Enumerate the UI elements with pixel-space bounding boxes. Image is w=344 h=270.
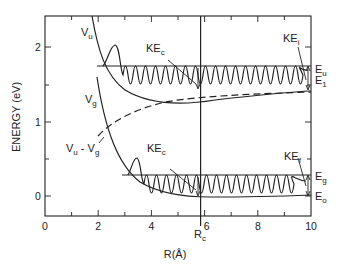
y-tick-2: 2 bbox=[35, 41, 41, 53]
upper-wavefunction bbox=[103, 45, 308, 84]
eg-label: Eg bbox=[315, 170, 327, 185]
plot-frame bbox=[45, 16, 311, 216]
x-tick-4: 4 bbox=[148, 220, 154, 232]
vu-minus-vg-label: Vu - Vg bbox=[66, 142, 99, 157]
kec-upper-label: KEc bbox=[146, 42, 165, 57]
x-tick-2: 2 bbox=[95, 220, 101, 232]
vg-label: Vg bbox=[85, 93, 97, 108]
energy-diagram-chart: 0 2 4 6 8 10 0 1 2 R(Å) ENERGY (eV) Rc bbox=[0, 0, 344, 270]
x-tick-6: 6 bbox=[204, 220, 210, 232]
leader-lines bbox=[99, 47, 306, 190]
kec-lower-label: KEc bbox=[147, 142, 166, 157]
y-tick-0: 0 bbox=[35, 190, 41, 202]
vg-curve bbox=[97, 77, 311, 197]
vu-minus-vg-curve bbox=[98, 92, 311, 136]
vu-curve bbox=[92, 16, 311, 103]
x-axis-title: R(Å) bbox=[164, 248, 187, 260]
y-axis-title: ENERGY (eV) bbox=[10, 82, 22, 152]
eo-label: Eo bbox=[315, 190, 327, 205]
x-tick-0: 0 bbox=[42, 220, 48, 232]
kef-label: KEf bbox=[284, 150, 302, 165]
right-edge-arrows bbox=[306, 66, 310, 196]
kei-label: KEi bbox=[283, 32, 300, 47]
y-axis-ticks bbox=[45, 47, 311, 196]
x-axis-ticks bbox=[72, 16, 285, 216]
vu-label: Vu bbox=[81, 26, 93, 41]
y-tick-1: 1 bbox=[35, 116, 41, 128]
x-tick-8: 8 bbox=[255, 220, 261, 232]
x-tick-10: 10 bbox=[305, 220, 317, 232]
